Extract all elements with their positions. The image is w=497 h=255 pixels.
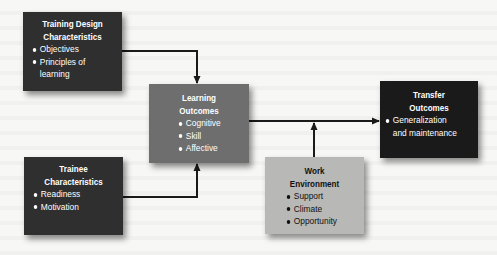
title-line: Work — [272, 165, 356, 178]
bullet-continuation: learning — [40, 68, 111, 81]
bullet-item: Affective — [177, 142, 240, 155]
bullet-list: Objectives Principles oflearning — [31, 43, 122, 81]
node-trainee-characteristics: Trainee Characteristics Readiness Motiva… — [24, 157, 123, 235]
bullet-item: Climate — [285, 203, 355, 216]
bullet-item: Skill — [177, 130, 240, 143]
title-line: Trainee — [31, 163, 115, 176]
bullet-item: Generalizationand maintenance — [384, 114, 467, 139]
bullet-item: Readiness — [32, 188, 112, 201]
title-line: Characteristics — [31, 176, 115, 189]
node-title: Work Environment — [272, 165, 356, 190]
bullet-item: Motivation — [32, 201, 112, 214]
node-title: Learning Outcomes — [157, 92, 242, 117]
bullet-item: Cognitive — [177, 117, 240, 130]
bullet-item: Principles oflearning — [31, 56, 111, 81]
title-line: Transfer — [387, 89, 470, 102]
node-work-environment: Work Environment Support Climate Opportu… — [265, 157, 364, 234]
bullet-continuation: and maintenance — [393, 127, 467, 140]
title-line: Outcomes — [387, 102, 470, 115]
title-line: Outcomes — [157, 105, 242, 118]
title-line: Environment — [272, 178, 356, 191]
title-line: Training Design — [30, 18, 114, 31]
bullet-list: Cognitive Skill Affective — [177, 117, 249, 155]
node-title: Transfer Outcomes — [387, 89, 470, 114]
bullet-list: Generalizationand maintenance — [384, 114, 478, 139]
bullet-item: Opportunity — [285, 215, 355, 228]
node-title: Trainee Characteristics — [31, 163, 115, 188]
node-learning-outcomes: Learning Outcomes Cognitive Skill Affect… — [149, 84, 249, 163]
node-training-design-characteristics: Training Design Characteristics Objectiv… — [23, 12, 122, 91]
node-title: Training Design Characteristics — [30, 18, 114, 43]
bullet-list: Support Climate Opportunity — [285, 190, 364, 228]
bullet-item: Objectives — [31, 43, 111, 56]
title-line: Characteristics — [30, 31, 114, 44]
node-transfer-outcomes: Transfer Outcomes Generalizationand main… — [380, 81, 478, 158]
title-line: Learning — [157, 92, 242, 105]
bullet-list: Readiness Motivation — [32, 188, 123, 213]
bullet-item: Support — [285, 190, 355, 203]
